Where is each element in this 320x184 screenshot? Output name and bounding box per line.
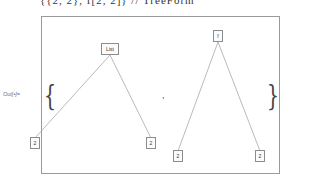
edge-f-child-2	[218, 42, 260, 151]
open-brace: {	[44, 82, 56, 110]
tree-node-leaf: 2	[30, 137, 40, 149]
tree-node-f-root: f	[213, 30, 223, 42]
edge-f-child-1	[178, 42, 218, 151]
close-brace: }	[267, 82, 279, 110]
tree-node-leaf: 2	[173, 150, 183, 162]
tree-node-leaf: 2	[146, 137, 156, 149]
edge-list-child-2	[110, 55, 151, 138]
tree-node-leaf: 2	[255, 150, 265, 162]
list-separator-comma: ,	[162, 90, 165, 100]
tree-node-list-root: List	[101, 43, 119, 55]
